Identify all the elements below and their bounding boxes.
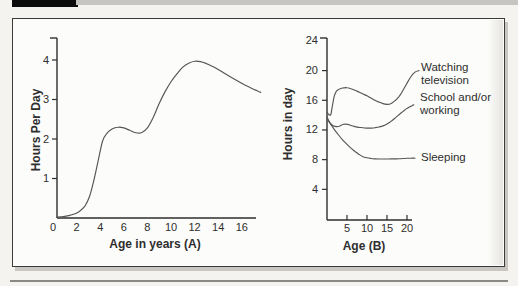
y-tick-label: 12 (290, 124, 318, 135)
series-label-line: working (420, 104, 491, 117)
series-label-line: television (421, 74, 469, 87)
series-label-line: Sleeping (421, 151, 466, 164)
y-tick-label: 1 (21, 173, 49, 184)
y-tick-label: 20 (290, 65, 318, 76)
y-tick-label: 3 (21, 94, 49, 105)
y-tick-label: 16 (290, 95, 318, 106)
x-tick-label: 20 (393, 223, 421, 234)
series-label-sleeping: Sleeping (421, 151, 466, 164)
y-tick-label: 8 (290, 154, 318, 165)
y-tick-label: 4 (290, 184, 318, 195)
y-tick-label: 4 (21, 55, 49, 66)
bottom-rule (10, 280, 508, 282)
series-label-watching-television: Watching television (421, 61, 469, 87)
right-x-axis-title: Age (B) (314, 240, 414, 253)
scanned-figure-page: Hours Per Day Age in years (A) Hours in … (0, 0, 518, 286)
series-label-line: School and/or (420, 91, 491, 104)
y-tick-label: 2 (21, 134, 49, 145)
x-tick-label: 16 (228, 222, 256, 233)
series-label-line: Watching (421, 61, 469, 74)
left-x-axis-title: Age in years (A) (65, 238, 245, 251)
labels-overlay: Hours Per Day Age in years (A) Hours in … (0, 0, 518, 286)
series-label-school-working: School and/or working (420, 91, 491, 117)
y-tick-label: 24 (290, 35, 318, 46)
